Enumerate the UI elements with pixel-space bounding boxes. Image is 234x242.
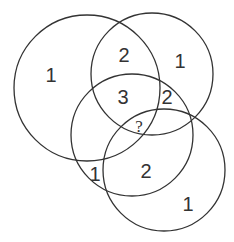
venn-diagram — [0, 0, 234, 242]
region-label-bc: 2 — [161, 87, 172, 107]
region-label-a-only: 1 — [45, 65, 56, 85]
circle-a — [14, 15, 160, 161]
region-label-abc: 3 — [117, 87, 128, 107]
region-label-d-only: 1 — [182, 194, 193, 214]
region-label-b-only: 1 — [174, 51, 185, 71]
region-label-unknown: ? — [135, 118, 143, 135]
circle-d — [103, 109, 225, 231]
region-label-ab: 2 — [118, 45, 129, 65]
region-label-cd: 2 — [140, 161, 151, 181]
region-label-c-only: 1 — [89, 164, 100, 184]
